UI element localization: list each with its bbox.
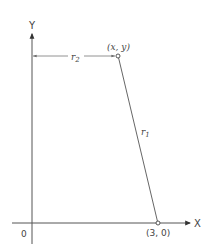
diagram-canvas: Y X 0 r2 r1 (x, y) (3, 0)	[0, 0, 210, 252]
y-axis-label: Y	[28, 20, 36, 31]
point-xy-label: (x, y)	[107, 42, 130, 52]
r1-segment	[119, 58, 158, 222]
point-3-0-label: (3, 0)	[146, 228, 170, 238]
r1-label: r1	[141, 127, 150, 139]
origin-label: 0	[21, 229, 27, 239]
point-xy	[116, 54, 120, 58]
r2-label: r2	[71, 52, 80, 64]
point-3-0	[156, 221, 160, 225]
x-axis-label: X	[194, 218, 201, 229]
